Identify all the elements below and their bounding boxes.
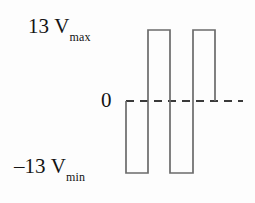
waveform-plot — [0, 0, 255, 203]
square-wave-figure: 13 Vmax 0 –13 Vmin — [0, 0, 255, 203]
